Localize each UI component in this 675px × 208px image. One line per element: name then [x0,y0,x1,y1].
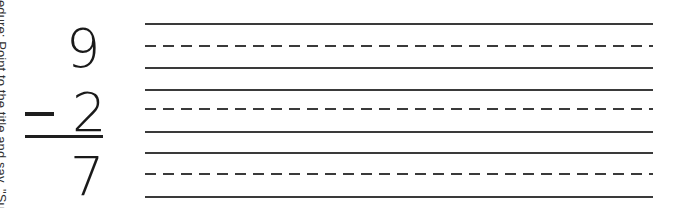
writing-line-base-1 [145,67,653,69]
subtrahend-digit: 2 [72,86,106,140]
writing-line-mid-2 [145,108,653,110]
instruction-note-rotated: edure: Point to the title and say, "Subt… [0,0,9,208]
answer-underline [25,135,103,138]
writing-line-top-2 [145,89,653,91]
writing-line-top-3 [145,152,653,154]
writing-line-mid-1 [145,45,653,47]
writing-line-top-1 [145,23,653,25]
difference-digit: 7 [70,150,104,204]
writing-line-mid-3 [145,173,653,175]
minuend-digit: 9 [66,22,100,76]
writing-line-base-3 [145,196,653,198]
writing-line-base-2 [145,131,653,133]
minus-sign [25,112,54,116]
